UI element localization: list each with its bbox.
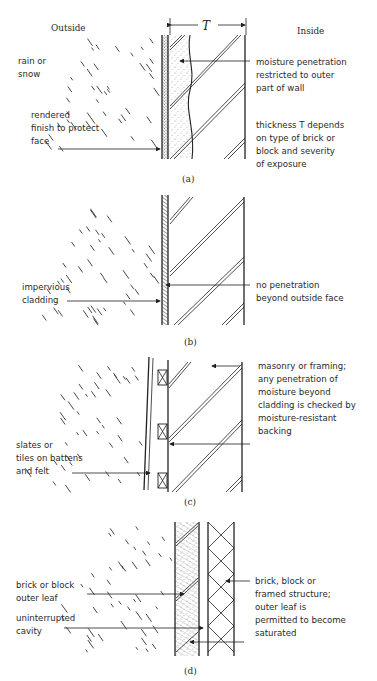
rain-streak [110,529,114,534]
rain-streak [131,310,135,315]
rain-streak [67,98,70,102]
rain-streak [92,48,94,50]
rain-streak [109,247,114,254]
label-masonry-framing: masonry or framing; any penetration of m… [258,361,359,436]
rain-streak [97,373,101,379]
rain-streak [92,574,94,577]
rain-streak [149,246,154,254]
rain-streak [123,271,128,279]
rain-streak [87,69,92,76]
slate-line [144,357,149,490]
rain-streak [77,412,79,415]
rain-streak [147,117,151,123]
rain-streak [96,100,98,103]
rain-streak [119,119,122,123]
rain-streak [91,306,95,312]
rain-streak [62,605,68,613]
rain-streak [104,308,106,311]
rain-streak [77,433,78,435]
rain-streak [118,479,120,482]
rain-streak [93,316,98,323]
thickness-symbol: T [202,19,211,33]
rain-streak [144,263,147,268]
rain-streak [87,227,90,231]
rain-streak [107,87,109,90]
rain-streak [88,640,93,648]
rain-streak [146,254,151,261]
rain-streak [102,233,105,237]
label-inner-structure: brick, block or framed structure; outer … [255,576,349,638]
rain-streak [88,307,92,312]
rain-streak [135,289,139,294]
rain-streak [139,442,141,445]
rain-streak [153,644,156,648]
rain-streak [104,92,106,95]
label-outer-leaf: brick or block outer leaf [16,580,77,603]
rain-streak [49,135,53,141]
rain-streak [126,108,130,113]
rain-streak [91,210,96,217]
rain-streak [102,129,107,136]
rain-streak [103,112,106,116]
rain-streak [118,435,122,441]
rain-streak [94,64,98,70]
rain-streak [162,537,164,540]
rain-streak [83,311,88,318]
rain-streak [116,46,119,51]
rain-streak [150,39,153,43]
rain-streak [68,402,73,410]
rain-streak [131,285,134,289]
rain-streak [119,601,121,604]
rain-streak [147,64,152,71]
rain-streak [62,465,65,470]
rain-streak [141,47,143,49]
rain-streak [63,263,66,267]
rain-streak [87,113,91,119]
rain-streak [95,383,99,389]
label-impervious-cladding: impervious cladding [22,282,72,305]
rain-streak [79,384,82,389]
rain-streak [97,418,100,423]
outside-header: Outside [51,23,86,33]
rain-streak [148,542,150,545]
rain-streak [124,302,126,304]
rain-streak [153,626,158,633]
rain-streak [74,393,79,400]
rain-streak [106,390,110,396]
rain-streak [123,377,125,380]
panel-d: brick or block outer leaf uninterrupted … [16,522,349,676]
rain-streak [81,584,83,587]
rain-streak [150,59,153,64]
rain-streak [108,367,110,370]
battens [158,370,167,488]
brick-joints-b [170,197,244,325]
rain-streak [170,558,172,560]
rain-streak [140,63,145,70]
rain-streak [66,485,71,492]
rain-streak [136,527,138,530]
rain-streak [108,90,110,93]
label-no-penetration: no penetration beyond outside face [256,280,343,303]
rain-streak [88,39,93,46]
rain-streak [79,365,83,371]
rain-streak [42,315,46,320]
rain-streak [91,245,95,250]
rain-streak [126,378,129,383]
rain-streak [107,216,111,222]
rain-streak [86,650,87,652]
rain-streak [96,230,99,234]
rain-streak [131,137,134,141]
rain-streak [53,482,55,485]
rain-streak [142,629,147,635]
caption-c: (c) [184,497,196,507]
rain-streak [102,425,104,428]
rain-streak [85,475,89,481]
rain-streak [121,115,125,121]
rain-streak [101,273,104,277]
rain-streak [92,86,95,90]
rain-streak [99,240,101,242]
rain-streak [104,278,107,282]
impervious-cladding [162,195,168,325]
rain-streak [132,249,134,252]
panel-a: Outside Inside T rain or snow [18,18,350,184]
